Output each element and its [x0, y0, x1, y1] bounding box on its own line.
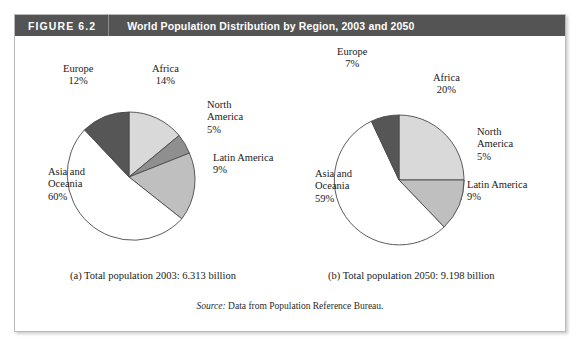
source-note: Source: Data from Population Reference B… [15, 301, 565, 311]
pie-label-north-america-l1-2050: North [477, 126, 502, 137]
pie-label-europe-pct-2003: 12% [63, 75, 93, 87]
pie-label-europe-2050: Europe 7% [337, 46, 367, 71]
pie-label-africa-2050: Africa 20% [433, 72, 460, 97]
figure-number-label: FIGURE 6.2 [15, 20, 96, 32]
pie-label-europe-name-2003: Europe [63, 63, 93, 74]
pie-label-africa-pct-2003: 14% [152, 75, 179, 87]
source-text: Data from Population Reference Bureau. [226, 301, 384, 311]
pie-label-africa-pct-2050: 20% [433, 84, 460, 96]
pie-label-europe-pct-2050: 7% [337, 58, 367, 70]
pie-label-asia-oceania-2003: Asia and Oceania 60% [48, 166, 85, 203]
figure-title: World Population Distribution by Region,… [109, 20, 414, 32]
pie-label-north-america-pct-2050: 5% [477, 151, 513, 163]
pie-label-north-america-pct-2003: 5% [207, 124, 243, 136]
pie-label-africa-name-2003: Africa [152, 63, 179, 74]
pie-label-africa-name-2050: Africa [433, 72, 460, 83]
source-label: Source: [197, 301, 226, 311]
figure-frame: FIGURE 6.2 World Population Distribution… [14, 14, 566, 332]
pie-label-latin-america-2003: Latin America 9% [213, 152, 273, 177]
pie-label-north-america-2050: North America 5% [477, 126, 513, 163]
pie-label-asia-oceania-2050: Asia and Oceania 59% [315, 168, 352, 205]
pie-label-latin-america-name-2003: Latin America [213, 152, 273, 163]
pie-label-north-america-l1-2003: North [207, 99, 232, 110]
pie-label-latin-america-name-2050: Latin America [467, 179, 527, 190]
pie-label-north-america-l2-2050: America [477, 138, 513, 150]
pie-chart-2003: Europe 12% Africa 14% North America 5% L… [15, 36, 305, 286]
pie-label-asia-oceania-l1-2003: Asia and [48, 166, 85, 177]
figure-header-bar: FIGURE 6.2 World Population Distribution… [15, 15, 565, 36]
caption-2050: (b) Total population 2050: 9.198 billion [328, 270, 494, 281]
pie-chart-2050: Europe 7% Africa 20% North America 5% La… [305, 36, 567, 286]
pie-label-north-america-l2-2003: America [207, 111, 243, 123]
pie-label-latin-america-pct-2050: 9% [467, 191, 527, 203]
pie-label-asia-oceania-pct-2003: 60% [48, 191, 85, 203]
pie-label-asia-oceania-pct-2050: 59% [315, 193, 352, 205]
pie-label-europe-name-2050: Europe [337, 46, 367, 57]
caption-2003: (a) Total population 2003: 6.313 billion [70, 270, 236, 281]
pie-label-europe-2003: Europe 12% [63, 63, 93, 88]
pie-label-north-america-2003: North America 5% [207, 99, 243, 136]
pie-label-latin-america-2050: Latin America 9% [467, 179, 527, 204]
pie-label-asia-oceania-l2-2050: Oceania [315, 180, 352, 192]
pie-label-latin-america-pct-2003: 9% [213, 164, 273, 176]
pie-label-asia-oceania-l1-2050: Asia and [315, 168, 352, 179]
pie-label-asia-oceania-l2-2003: Oceania [48, 178, 85, 190]
pie-label-africa-2003: Africa 14% [152, 63, 179, 88]
